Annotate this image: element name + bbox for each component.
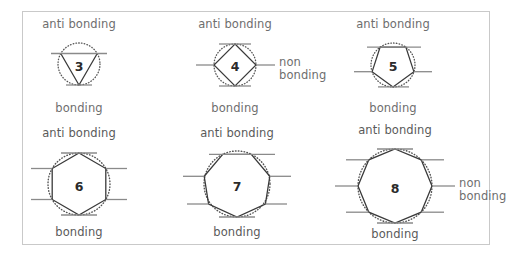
panel-3-number: 3 bbox=[75, 59, 84, 74]
panel-8-bonding-label: bonding bbox=[371, 228, 418, 241]
panel-4: anti bonding 4 non bonding bonding bbox=[179, 12, 335, 124]
panel-7-bonding-label: bonding bbox=[213, 226, 260, 239]
panel-7: anti bonding 7 bonding bbox=[179, 124, 335, 246]
panel-4-non-bonding-label: non bonding bbox=[279, 56, 326, 81]
panel-6-number: 6 bbox=[75, 179, 84, 194]
diagram-frame: anti bonding 3 bonding anti bonding bbox=[22, 11, 490, 245]
panel-8: anti bonding 8 non bonding bonding bbox=[335, 124, 491, 246]
panel-4-number: 4 bbox=[231, 59, 240, 74]
panel-8-number: 8 bbox=[391, 181, 400, 196]
panel-6: anti bonding 6 bonding bbox=[23, 124, 179, 246]
panel-4-non-bonding-line2: bonding bbox=[279, 68, 326, 82]
panel-5-number: 5 bbox=[389, 59, 398, 74]
panel-3-bonding-label: bonding bbox=[55, 102, 102, 115]
panel-4-bonding-label: bonding bbox=[211, 102, 258, 115]
panel-7-number: 7 bbox=[233, 179, 242, 194]
panel-8-non-bonding-label: non bonding bbox=[459, 177, 506, 202]
panel-5-bonding-label: bonding bbox=[369, 102, 416, 115]
panel-8-non-bonding-line2: bonding bbox=[459, 189, 506, 203]
panel-6-bonding-label: bonding bbox=[55, 226, 102, 239]
panel-3: anti bonding 3 bonding bbox=[23, 12, 179, 124]
panel-5: anti bonding 5 bonding bbox=[335, 12, 491, 124]
